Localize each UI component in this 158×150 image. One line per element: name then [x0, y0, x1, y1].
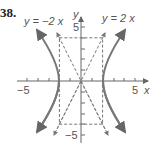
y-tick-pos5: 5: [73, 21, 79, 33]
hyperbola-right-branch-lower: [103, 81, 125, 132]
asymptote-label-right: y = 2 x: [101, 12, 135, 24]
hyperbola-left-branch-lower: [37, 81, 59, 132]
x-tick-neg5: −5: [17, 84, 30, 96]
asymptote-label-left: y = −2 x: [23, 15, 64, 27]
y-axis-label: y: [72, 8, 80, 20]
hyperbola-graph: y = −2 x y = 2 x y x −5 5 5 −5: [0, 0, 158, 150]
x-tick-pos5: 5: [132, 84, 138, 96]
x-axis-label: x: [143, 84, 150, 96]
y-tick-neg5: −5: [65, 129, 78, 141]
